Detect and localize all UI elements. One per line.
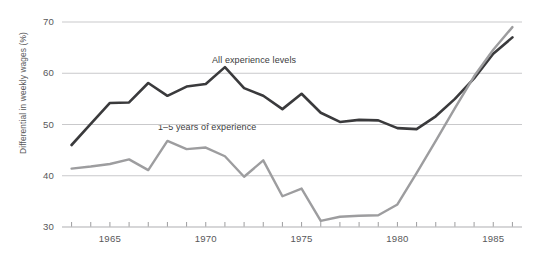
x-axis-ticks xyxy=(72,222,513,227)
chart-container: Differential in weekly wages (%) 70 60 5… xyxy=(0,0,538,261)
series-line-1-5-years-of-experience xyxy=(72,27,513,221)
plot-area xyxy=(0,0,538,261)
series-lines xyxy=(72,27,513,221)
series-line-all-experience-levels xyxy=(72,37,513,145)
gridlines xyxy=(62,22,522,227)
